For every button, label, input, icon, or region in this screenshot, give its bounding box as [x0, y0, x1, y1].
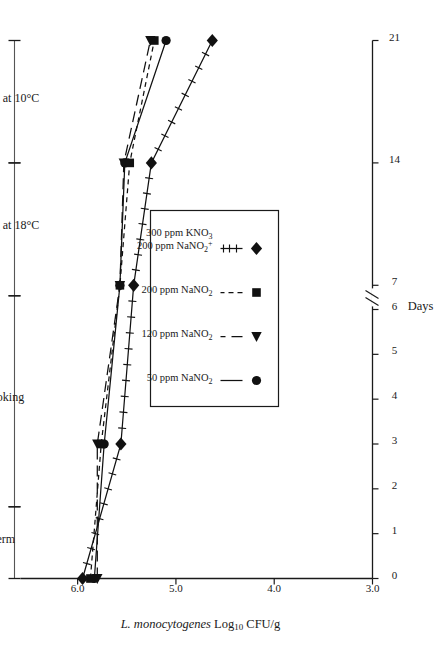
legend-label-sub: 2	[208, 288, 212, 297]
y-axis-title-tail: CFU/g	[243, 616, 281, 630]
series-line-hatch	[134, 254, 142, 255]
x-tick-label: 21	[389, 30, 400, 42]
phase-label: Smoking	[0, 390, 24, 404]
marker-square	[125, 158, 134, 167]
legend-label-main: 120 ppm NaNO	[141, 327, 208, 338]
x-tick-label: 7	[391, 275, 397, 287]
y-axis-title-log: Log	[210, 616, 234, 630]
legend-label2-main: 300 ppm KNO	[146, 226, 209, 237]
legend-label-main: 200 ppm NaNO	[136, 239, 203, 250]
x-tick-label: 5	[391, 344, 397, 356]
series-line-hatch	[108, 472, 116, 474]
series-2	[92, 36, 155, 584]
legend-label2-sub: 3	[208, 231, 212, 240]
series-line	[97, 40, 150, 578]
marker-square	[115, 280, 124, 289]
series-line-hatch	[138, 223, 146, 224]
y-axis-title-italic: L. monocytogenes	[119, 616, 210, 630]
legend-label-main: 50 ppm NaNO	[146, 371, 208, 382]
x-tick-label: 1	[391, 523, 397, 535]
marker-square	[252, 288, 261, 297]
y-tick-label: 5.0	[169, 582, 183, 594]
marker-circle	[161, 35, 170, 44]
series-line-hatch	[112, 457, 120, 459]
x-tick-label: 6	[391, 299, 397, 311]
marker-diamond	[115, 437, 126, 450]
figure-root: 0123456714213.04.05.06.0FermSmokingDryin…	[0, 0, 445, 656]
x-tick-label: 4	[391, 389, 397, 401]
x-tick-label: 0	[391, 568, 397, 580]
chart-svg: 0123456714213.04.05.06.0FermSmokingDryin…	[0, 0, 445, 656]
y-axis-title: L. monocytogenes Log10 CFU/g	[119, 616, 280, 631]
x-axis-title: Days	[407, 298, 433, 312]
y-axis-title-text: L. monocytogenes Log10 CFU/g	[119, 616, 280, 631]
phase-label: Ferm	[0, 531, 15, 545]
legend-label-sub: 2	[208, 376, 212, 385]
marker-diamond	[128, 278, 139, 291]
axis-break-gap	[371, 288, 374, 306]
series-line	[90, 40, 154, 578]
legend-label-main: 200 ppm NaNO	[141, 283, 208, 294]
series-line-hatch	[104, 487, 112, 489]
marker-square	[96, 439, 105, 448]
marker-diamond	[145, 156, 156, 169]
legend-label-sub: 2	[203, 244, 207, 253]
x-tick-label: 14	[389, 152, 401, 164]
series-line-hatch	[142, 192, 150, 193]
x-tick-label: 2	[391, 478, 397, 490]
series-line-hatch	[100, 502, 108, 504]
y-tick-label: 4.0	[267, 582, 281, 594]
y-tick-label: 3.0	[365, 582, 379, 594]
marker-diamond	[206, 33, 217, 46]
series-line-hatch	[145, 177, 153, 178]
x-tick-label: 3	[391, 434, 397, 446]
series-line-hatch	[131, 269, 139, 270]
series-line-hatch	[140, 208, 148, 209]
series-3	[86, 36, 158, 583]
phase-label: Drying at 18°C	[0, 218, 39, 232]
plot-area: 0123456714213.04.05.06.0FermSmokingDryin…	[0, 0, 445, 656]
series-line-hatch	[82, 562, 90, 564]
marker-square	[150, 36, 159, 45]
legend-label-sub: 2	[208, 332, 212, 341]
legend: 50 ppm NaNO2120 ppm NaNO2200 ppm NaNO220…	[136, 210, 278, 406]
phase-label: Drying at 10°C	[0, 90, 39, 104]
y-axis-title-sub: 10	[234, 621, 244, 631]
rotated-figure: 0123456714213.04.05.06.0FermSmokingDryin…	[0, 0, 445, 656]
